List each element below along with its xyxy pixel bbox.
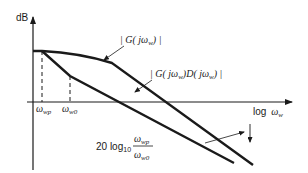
y-axis-label: dB — [16, 12, 29, 23]
curve-gd-label: | G( jωw)D( jωw) | — [150, 68, 222, 81]
annotation-denominator: ωw0 — [134, 149, 150, 162]
annotation-numerator: ωwp — [134, 133, 150, 146]
bode-diagram: dB log ωw | G( jωw) | | G( jωw)D( jωw) |… — [0, 0, 308, 173]
tick-label-w0: ωw0 — [62, 103, 78, 116]
leader-g — [104, 46, 124, 60]
annotation-prefix: 20 log10 — [96, 141, 131, 153]
x-axis-label: log ωw — [253, 106, 283, 119]
curve-g-label: | G( jωw) | — [120, 34, 161, 47]
tick-label-wp: ωwp — [36, 103, 52, 116]
